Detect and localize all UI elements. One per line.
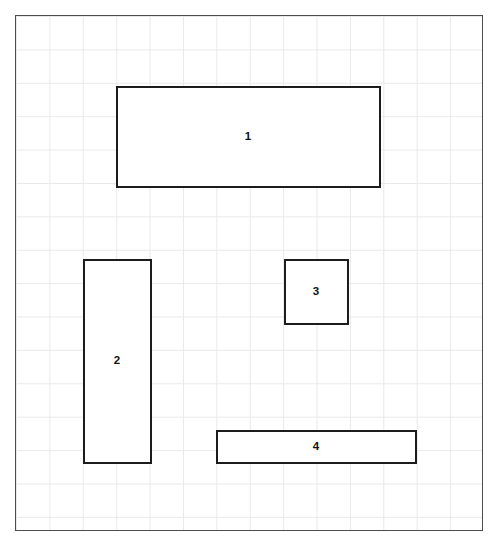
rectangle-1-label: 1 bbox=[245, 131, 252, 143]
rectangle-4[interactable]: 4 bbox=[216, 430, 417, 464]
rectangle-3[interactable]: 3 bbox=[284, 259, 349, 325]
rectangle-4-label: 4 bbox=[313, 441, 320, 453]
rectangle-2[interactable]: 2 bbox=[83, 259, 152, 464]
rectangle-1[interactable]: 1 bbox=[116, 86, 381, 188]
diagram-canvas: 1 2 3 4 bbox=[0, 0, 498, 549]
rectangle-3-label: 3 bbox=[313, 286, 320, 298]
rectangle-2-label: 2 bbox=[114, 355, 121, 367]
graph-paper-sheet: 1 2 3 4 bbox=[15, 15, 483, 531]
